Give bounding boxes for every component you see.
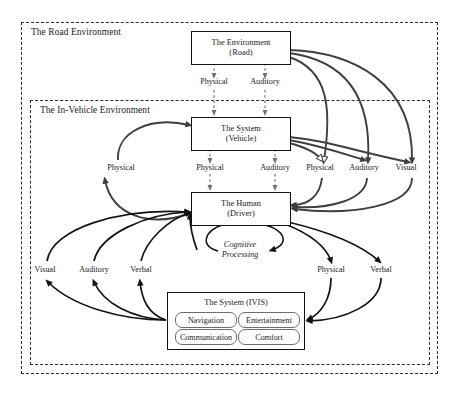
diagram-canvas: The Road Environment The In-Vehicle Envi… [0,0,456,393]
ivis-feature-entertainment-label: Entertainment [246,316,292,325]
edge-label-upper-physical-left: Physical [107,163,135,172]
channels-to-human-arcs [293,178,412,211]
node-human-driver[interactable]: The Human (Driver) [191,192,291,226]
ivis-feature-comfort[interactable]: Comfort [238,329,300,345]
human-sensory-input-arcs [47,211,197,261]
edge-label-upper-auditory-right: Auditory [349,163,379,172]
edge-label-env-auditory: Auditory [250,77,280,86]
ivis-feature-navigation-label: Navigation [188,316,224,325]
node-environment-road-line1: The Environment [212,38,271,48]
node-system-ivis-title: The System (IVIS) [168,298,304,307]
cognitive-processing-line1: Cognitive [224,240,256,249]
node-system-vehicle-line1: The System [221,124,261,134]
node-environment-road[interactable]: The Environment (Road) [191,31,291,65]
edge-label-upper-auditory-center: Auditory [260,163,290,172]
ivis-feature-comfort-label: Comfort [255,333,282,342]
node-human-driver-line2: (Driver) [227,209,254,219]
node-system-vehicle-line2: (Vehicle) [226,134,257,144]
human-to-ivis-arcs [285,222,379,261]
node-system-vehicle[interactable]: The System (Vehicle) [191,117,291,151]
edge-label-env-physical: Physical [200,77,228,86]
node-system-ivis[interactable]: The System (IVIS) Navigation Entertainme… [167,292,305,350]
ivis-input-arcs [309,278,381,321]
node-human-driver-line1: The Human [221,199,261,209]
edge-label-upper-visual-right: Visual [396,163,417,172]
edge-label-lower-verbal-right: Verbal [370,265,391,274]
edge-label-upper-physical-right: Physical [306,163,334,172]
vehicle-output-arcs [289,137,408,162]
ivis-feature-entertainment[interactable]: Entertainment [238,312,300,328]
edge-label-lower-physical: Physical [317,265,345,274]
edge-label-upper-physical-center: Physical [196,163,224,172]
ivis-feature-communication-label: Communication [180,333,232,342]
edge-label-lower-visual: Visual [35,265,56,274]
node-environment-road-line2: (Road) [229,48,252,58]
cognitive-processing-line2: Processing [222,250,259,259]
edge-label-lower-auditory: Auditory [79,265,109,274]
ivis-output-arcs [48,282,166,320]
cognitive-processing-label: Cognitive Processing [222,240,259,261]
edge-label-lower-verbal-left: Verbal [130,265,151,274]
ivis-feature-communication[interactable]: Communication [175,329,237,345]
ivis-feature-navigation[interactable]: Navigation [175,312,237,328]
